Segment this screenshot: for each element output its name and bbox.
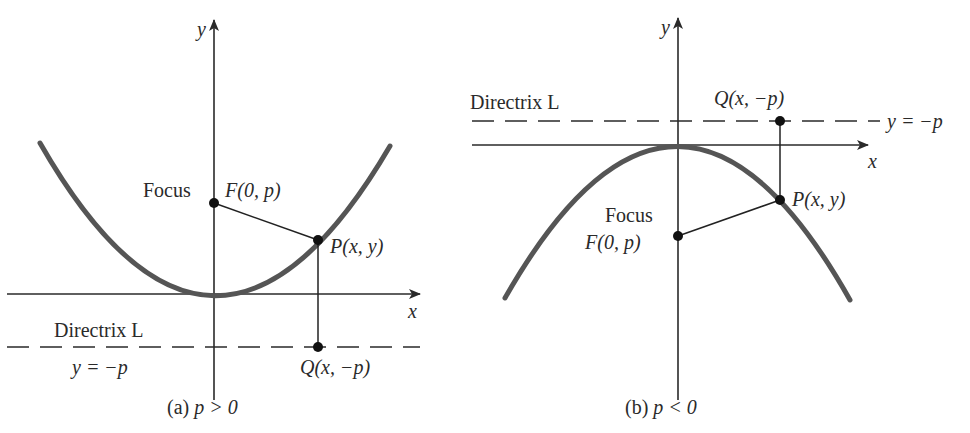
point-q-label-b: Q(x, −p) — [714, 87, 784, 110]
point-p-a — [313, 235, 323, 245]
panel-b: y x Directrix L Q(x, −p) y = −p P(x, y) … — [470, 16, 943, 419]
point-q-b — [775, 116, 785, 126]
y-axis-label-a: y — [195, 18, 206, 41]
focus-label-b: F(0, p) — [584, 231, 641, 254]
focus-point-a — [209, 198, 219, 208]
x-axis-label-b: x — [867, 150, 877, 172]
directrix-equation-a: y = −p — [70, 356, 128, 379]
directrix-equation-b: y = −p — [885, 110, 943, 133]
focus-label-a: F(0, p) — [224, 179, 281, 202]
caption-a: (a) p > 0 — [167, 396, 238, 419]
point-p-b — [775, 195, 785, 205]
y-axis-label-b: y — [659, 16, 670, 39]
point-p-label-b: P(x, y) — [791, 188, 846, 211]
panel-a: y x Focus F(0, p) P(x, y) Directrix L y … — [7, 18, 420, 419]
parabola-curve-a — [40, 143, 390, 296]
point-p-label-a: P(x, y) — [329, 235, 384, 258]
focus-word-b: Focus — [605, 204, 653, 226]
point-q-label-a: Q(x, −p) — [300, 356, 370, 379]
caption-b: (b) p < 0 — [625, 396, 697, 419]
focus-to-point-segment-a — [214, 203, 318, 240]
point-q-a — [313, 342, 323, 352]
focus-word-a: Focus — [143, 179, 191, 201]
focus-point-b — [673, 231, 683, 241]
parabola-figure: y x Focus F(0, p) P(x, y) Directrix L y … — [0, 0, 970, 433]
directrix-label-a: Directrix L — [54, 319, 143, 341]
x-axis-label-a: x — [407, 300, 417, 322]
focus-to-point-segment-b — [678, 200, 780, 236]
directrix-label-b: Directrix L — [470, 91, 559, 113]
